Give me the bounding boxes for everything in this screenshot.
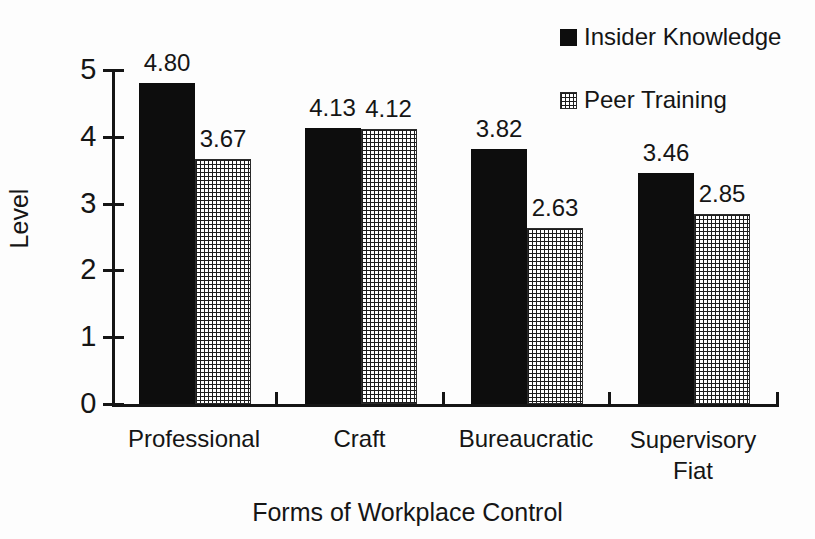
x-axis-separator-2: [442, 392, 445, 407]
legend-swatch-solid-icon: [560, 29, 577, 46]
x-axis-separator-1: [275, 392, 278, 407]
category-label-line-1: Supervisory: [630, 426, 757, 453]
x-axis-line: [112, 404, 779, 407]
bar-bureaucratic-insider-knowledge: [471, 149, 527, 404]
category-label-line-1: Professional: [128, 425, 260, 452]
bar-value-label-professional-insider-knowledge: 4.80: [127, 51, 207, 75]
category-label-line-1: Bureaucratic: [459, 425, 594, 452]
bar-value-label-bureaucratic-peer-training: 2.63: [515, 196, 595, 220]
x-axis-title: Forms of Workplace Control: [0, 500, 815, 525]
bar-supervisory-fiat-peer-training: [694, 214, 750, 404]
category-label-line-2: Fiat: [579, 455, 807, 486]
bar-chart: Level 543210 4.803.674.134.123.822.633.4…: [0, 0, 815, 539]
bar-craft-peer-training: [361, 129, 417, 404]
y-axis-tick-label-wrap-2: 2: [48, 255, 96, 285]
x-axis-category-label-supervisory-fiat: SupervisoryFiat: [579, 424, 807, 486]
y-axis-tick-label-5: 5: [56, 55, 96, 84]
x-axis-separator-3: [608, 392, 611, 407]
y-axis-tick-5: [103, 69, 124, 72]
legend-label-peer-training: Peer Training: [584, 88, 727, 112]
y-axis-tick-label-wrap-1: 1: [48, 322, 96, 352]
y-axis-tick-2: [103, 269, 124, 272]
bar-value-label-bureaucratic-insider-knowledge: 3.82: [459, 117, 539, 141]
legend-item-insider-knowledge: Insider Knowledge: [560, 22, 810, 52]
y-axis-tick-label-wrap-5: 5: [48, 55, 96, 85]
y-axis-line: [112, 70, 115, 406]
y-axis-tick-label-4: 4: [56, 122, 96, 151]
bar-professional-peer-training: [195, 159, 251, 404]
bar-value-label-supervisory-fiat-peer-training: 2.85: [682, 182, 762, 206]
y-axis-tick-1: [103, 336, 124, 339]
legend-label-insider-knowledge: Insider Knowledge: [584, 25, 781, 49]
y-axis-tick-label-1: 1: [56, 322, 96, 351]
y-axis-tick-3: [103, 203, 124, 206]
legend-item-peer-training: Peer Training: [560, 85, 810, 115]
x-axis-end-tick: [776, 392, 779, 407]
y-axis-tick-label-wrap-0: 0: [48, 389, 96, 419]
y-axis-tick-label-wrap-3: 3: [48, 189, 96, 219]
y-axis-title: Level: [7, 169, 32, 269]
category-label-line-1: Craft: [333, 425, 385, 452]
bar-bureaucratic-peer-training: [527, 228, 583, 404]
y-axis-tick-label-wrap-4: 4: [48, 122, 96, 152]
bar-craft-insider-knowledge: [305, 128, 361, 404]
y-axis-tick-label-3: 3: [56, 189, 96, 218]
y-axis-tick-label-0: 0: [56, 389, 96, 418]
bar-supervisory-fiat-insider-knowledge: [638, 173, 694, 404]
bar-value-label-craft-peer-training: 4.12: [349, 97, 429, 121]
bar-value-label-professional-peer-training: 3.67: [183, 127, 263, 151]
legend-swatch-hatch-icon: [560, 92, 577, 109]
legend: Insider Knowledge Peer Training: [560, 22, 810, 148]
y-axis-tick-label-2: 2: [56, 255, 96, 284]
y-axis-tick-4: [103, 136, 124, 139]
